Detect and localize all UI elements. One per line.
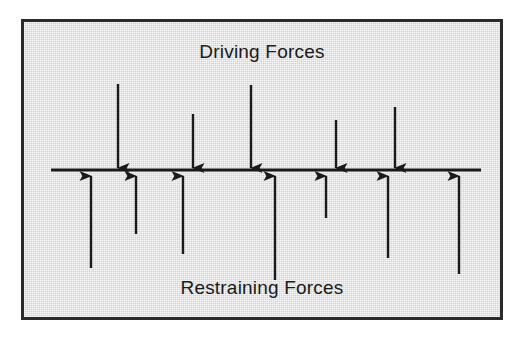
driving-forces-group — [118, 84, 395, 168]
diagram-canvas: Driving Forces — [0, 0, 523, 341]
force-arrows-svg — [24, 22, 500, 317]
restraining-forces-label: Restraining Forces — [24, 277, 500, 299]
force-field-panel: Driving Forces — [21, 19, 503, 320]
restraining-forces-group — [91, 176, 459, 280]
